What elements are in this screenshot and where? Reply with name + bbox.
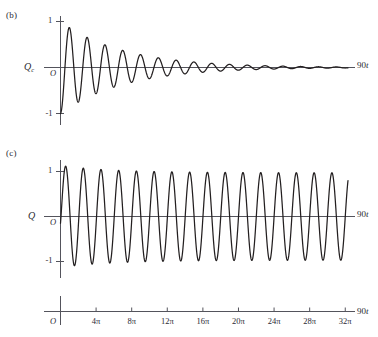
- shared-x-axis: [0, 0, 378, 337]
- xaxis-tick-label: 24π: [257, 316, 291, 326]
- figure-root: (b) Qc O 1 -1 90t (c) Q O 1 -1 90t O 90t…: [0, 0, 378, 337]
- xaxis-tick-marks: [96, 308, 345, 312]
- xaxis-tick-label: 12π: [150, 316, 184, 326]
- xaxis-tick-label: 4π: [79, 316, 113, 326]
- xaxis-tick-label: 8π: [115, 316, 149, 326]
- xaxis-tick-label: 28π: [293, 316, 327, 326]
- xaxis-tick-label: 16π: [186, 316, 220, 326]
- xaxis-tick-label: 32π: [328, 316, 362, 326]
- xaxis-tick-label: 20π: [221, 316, 255, 326]
